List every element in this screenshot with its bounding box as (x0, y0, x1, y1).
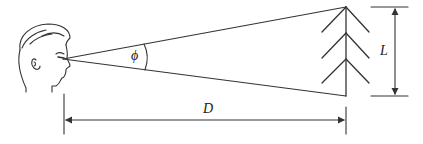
angle-arc (144, 44, 147, 70)
tree-icon (322, 7, 369, 96)
diagram-canvas: ϕ L D (0, 0, 423, 144)
sightline-bottom (63, 59, 346, 96)
diagram-svg (0, 0, 423, 144)
height-label-L: L (380, 43, 388, 59)
distance-label-D: D (203, 101, 213, 117)
angle-label-phi: ϕ (131, 48, 138, 64)
observer-head-icon (19, 24, 70, 92)
sightline-top (63, 7, 346, 59)
